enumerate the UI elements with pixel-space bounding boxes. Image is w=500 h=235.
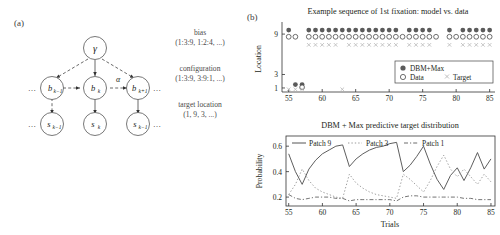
chart-fixation-sequence-svg: Example sequence of 1st fixation: model … (252, 4, 498, 114)
y-tick-label-bottom: 0.4 (273, 168, 283, 177)
chart-predictive-distribution-svg: DBM + Max predictive target distribution… (252, 118, 498, 234)
legend-label-data: Data (410, 73, 425, 82)
node-b-next-subscript: k+1 (139, 88, 148, 94)
marker-open-circle (481, 34, 486, 39)
annotation-target-location: target location (1, 9, 3, ...) (150, 100, 250, 121)
edge-gamma-bprev (56, 59, 88, 78)
model-annotations: bias (1:3:9, 1:2:4, ...) configuration (… (150, 26, 250, 136)
marker-open-circle (373, 34, 378, 39)
legend-label-dbm-max: DBM+Max (410, 64, 444, 73)
marker-filled-circle (353, 28, 358, 33)
chart-title-top: Example sequence of 1st fixation: model … (308, 7, 469, 16)
x-tick-label-bottom: 85 (487, 208, 495, 217)
x-tick-label-top: 80 (452, 94, 460, 103)
marker-filled-circle (333, 28, 338, 33)
marker-open-circle (306, 34, 311, 39)
marker-filled-circle (313, 28, 318, 33)
y-tick-label-top: 3 (274, 70, 278, 79)
marker-open-circle (400, 34, 405, 39)
marker-cross (354, 43, 358, 47)
marker-filled-circle (367, 28, 372, 33)
marker-open-circle (313, 34, 318, 39)
marker-filled-circle (414, 28, 419, 33)
marker-cross (367, 43, 371, 47)
marker-open-circle (380, 34, 385, 39)
figure-root: (a) (b) γ (0, 0, 500, 235)
marker-cross (294, 88, 298, 92)
marker-open-circle (474, 34, 479, 39)
legend-label-patch-9: Patch 9 (309, 139, 332, 148)
marker-cross (374, 43, 378, 47)
marker-cross (448, 43, 452, 47)
x-tick-label-bottom: 55 (285, 208, 293, 217)
x-tick-label-bottom: 65 (352, 208, 360, 217)
ellipsis-left-b: … (28, 84, 36, 93)
y-tick-label-bottom: 0.2 (273, 193, 283, 202)
marker-open-circle (333, 34, 338, 39)
marker-open-circle (340, 34, 345, 39)
marker-cross (488, 43, 492, 47)
annotation-bias: bias (1:3:9, 1:2:4, ...) (150, 28, 250, 49)
marker-filled-circle (407, 28, 412, 33)
x-tick-label-top: 85 (486, 94, 494, 103)
marker-cross (394, 43, 398, 47)
marker-cross (381, 43, 385, 47)
x-tick-label-bottom: 60 (319, 208, 327, 217)
node-s-cur (84, 113, 107, 136)
line-patch-1 (289, 195, 491, 201)
marker-cross (334, 43, 338, 47)
annotation-target-title: target location (150, 100, 250, 110)
marker-open-circle (434, 34, 439, 39)
marker-filled-circle (286, 28, 291, 33)
chart-fixation-sequence: Example sequence of 1st fixation: model … (252, 4, 498, 114)
legend-label-patch-1: Patch 1 (422, 139, 445, 148)
marker-open-circle (367, 34, 372, 39)
marker-cross (461, 43, 465, 47)
marker-open-circle (414, 34, 419, 39)
annotation-bias-title: bias (150, 28, 250, 38)
annotation-configuration-title: configuration (150, 64, 250, 74)
annotation-configuration-values: (1:3:9, 3:9:1, ...) (150, 74, 250, 84)
marker-open-circle (407, 34, 412, 39)
marker-open-circle (427, 34, 432, 39)
marker-filled-circle (387, 28, 392, 33)
marker-filled-circle (320, 28, 325, 33)
node-b-prev-subscript: k−1 (54, 88, 63, 94)
y-axis-label-bottom: Probability (255, 154, 264, 189)
marker-open-circle (347, 34, 352, 39)
y-axis-label-top: Location (254, 45, 263, 73)
marker-cross (468, 43, 472, 47)
marker-filled-circle (347, 28, 352, 33)
node-b-prev-label: b (48, 83, 52, 93)
marker-open-circle (393, 34, 398, 39)
marker-filled-circle (447, 28, 452, 33)
marker-filled-circle (306, 28, 311, 33)
legend-label-patch-3: Patch 3 (366, 139, 389, 148)
marker-cross (407, 43, 411, 47)
marker-open-circle (487, 34, 492, 39)
marker-cross (481, 43, 485, 47)
marker-open-circle (326, 34, 331, 39)
marker-open-circle (460, 34, 465, 39)
marker-open-circle (447, 34, 452, 39)
marker-open-circle (320, 34, 325, 39)
marker-cross (421, 43, 425, 47)
marker-open-circle (454, 34, 459, 39)
marker-cross (320, 43, 324, 47)
marker-open-circle (293, 34, 298, 39)
marker-filled-circle (487, 28, 492, 33)
marker-open-circle (467, 34, 472, 39)
marker-filled-circle (360, 28, 365, 33)
marker-open-circle (420, 34, 425, 39)
marker-open-circle (387, 34, 392, 39)
y-tick-label-top: 1 (274, 84, 278, 93)
marker-filled-circle (293, 82, 298, 87)
marker-filled-circle (340, 28, 345, 33)
x-tick-label-bottom: 80 (453, 208, 461, 217)
marker-cross (361, 43, 365, 47)
node-s-prev-subscript: k−1 (53, 124, 62, 130)
marker-filled-circle (380, 28, 385, 33)
ellipsis-left-s: … (28, 120, 36, 129)
marker-cross (307, 43, 311, 47)
marker-cross (327, 43, 331, 47)
